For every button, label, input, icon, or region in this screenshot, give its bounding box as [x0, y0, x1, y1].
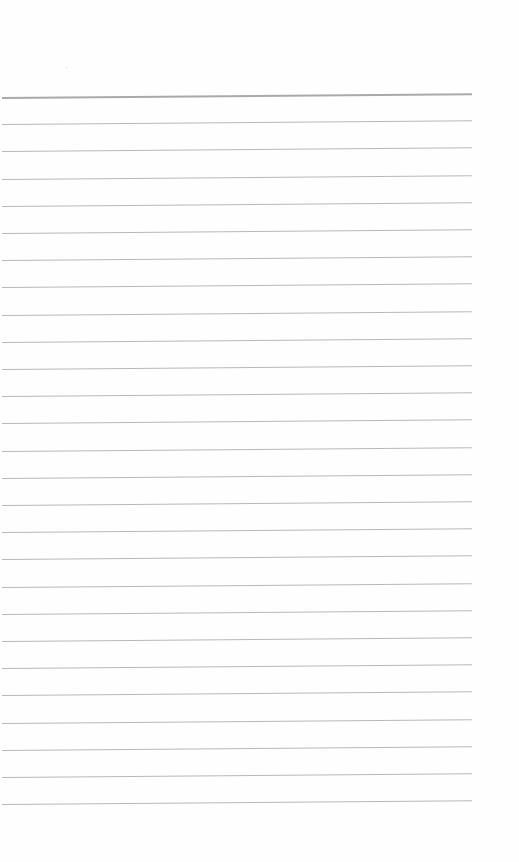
rule-line [2, 474, 472, 479]
top-rule-line [2, 93, 472, 99]
rule-line [2, 637, 472, 642]
rule-line [2, 175, 472, 180]
rule-line [2, 773, 472, 778]
rule-line [2, 256, 472, 261]
rule-line [2, 120, 472, 125]
rule-line [2, 311, 472, 316]
rule-line [2, 719, 472, 724]
rule-line [2, 392, 472, 397]
rule-line [2, 800, 472, 805]
rule-line [2, 202, 472, 207]
rule-line [2, 746, 472, 751]
rule-line [2, 365, 472, 370]
rule-line [2, 284, 472, 289]
rule-line [2, 148, 472, 153]
rule-line [2, 229, 472, 234]
paper-speck [66, 67, 67, 68]
lined-paper-page [0, 0, 519, 862]
rule-line [2, 692, 472, 697]
rule-line [2, 556, 472, 561]
rule-line [2, 447, 472, 452]
rule-line [2, 501, 472, 506]
rule-line [2, 420, 472, 425]
rule-line [2, 664, 472, 669]
rule-line [2, 338, 472, 343]
rule-line [2, 528, 472, 533]
rule-line [2, 583, 472, 588]
rule-line [2, 610, 472, 615]
